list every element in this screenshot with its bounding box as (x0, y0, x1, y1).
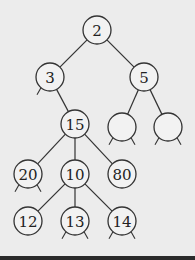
tree-edge (60, 40, 87, 67)
tree-diagram: 23515201080121314 (0, 0, 195, 260)
node-label: 12 (18, 213, 37, 231)
null-child-stub (37, 88, 41, 95)
null-child-stub (155, 138, 159, 145)
node-label: 20 (18, 166, 37, 184)
node-label: 15 (65, 116, 84, 134)
tree-node-13: 13 (61, 207, 89, 235)
tree-node-empty (108, 113, 136, 141)
tree-edge (57, 89, 69, 111)
tree-node-20: 20 (14, 160, 42, 188)
tree-edge (150, 90, 162, 115)
tree-node-5: 5 (130, 63, 158, 91)
tree-edge (107, 40, 134, 67)
null-child-stub (15, 185, 19, 192)
node-label: 5 (139, 69, 149, 87)
null-child-stub (84, 232, 88, 239)
bottom-border (0, 256, 195, 260)
node-label: 10 (65, 166, 84, 184)
tree-node-12: 12 (14, 207, 42, 235)
null-child-stub (37, 185, 41, 192)
null-child-stub (131, 232, 135, 239)
null-child-stub (177, 138, 181, 145)
null-child-stub (131, 138, 135, 145)
tree-edge (128, 90, 139, 114)
tree-edge (85, 134, 113, 164)
node-label: 13 (65, 213, 84, 231)
tree-node-3: 3 (36, 63, 64, 91)
tree-edge (85, 184, 112, 211)
tree-node-15: 15 (61, 110, 89, 138)
node-label: 80 (112, 166, 131, 184)
node-label: 2 (92, 22, 102, 40)
null-child-stub (62, 232, 66, 239)
node-label: 14 (112, 213, 131, 231)
node-label: 3 (45, 69, 55, 87)
tree-edge (38, 134, 66, 164)
tree-edge (38, 184, 65, 211)
tree-node-10: 10 (61, 160, 89, 188)
tree-node-empty (154, 113, 182, 141)
null-child-stub (109, 232, 113, 239)
tree-node-14: 14 (108, 207, 136, 235)
null-child-stub (109, 138, 113, 145)
tree-node-80: 80 (108, 160, 136, 188)
tree-node-2: 2 (83, 16, 111, 44)
